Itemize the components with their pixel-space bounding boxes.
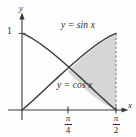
x-tick-label-pi-over-4: π 4 [62, 114, 74, 135]
y-axis-arrowhead [19, 13, 24, 20]
pi-over-4-numerator: π [62, 114, 74, 124]
y-tick-label-one: 1 [7, 27, 12, 37]
curve-label-sin: y = sin x [61, 21, 95, 31]
x-tick-label-pi-over-2: π 2 [110, 114, 122, 135]
pi-over-2-denominator: 2 [110, 126, 122, 136]
x-axis-label: x [128, 101, 132, 110]
pi-over-2-numerator: π [110, 114, 122, 124]
y-axis-label: y [19, 4, 23, 13]
curve-label-cos: y = cos x [57, 81, 93, 91]
figure-container: y x 1 y = sin x y = cos x π 4 π 2 [0, 0, 136, 137]
pi-over-4-denominator: 4 [62, 126, 74, 136]
